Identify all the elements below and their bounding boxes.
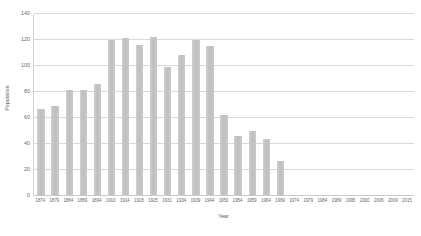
bar xyxy=(192,40,199,196)
x-axis-title: Year xyxy=(33,213,414,219)
x-axis-tick-label: 1950 xyxy=(216,199,230,211)
x-axis-tick-label: 1939 xyxy=(188,199,202,211)
x-axis-tick-label: 1944 xyxy=(202,199,216,211)
bar xyxy=(220,115,227,196)
y-axis-tick-labels: 020406080100120140 xyxy=(14,0,32,200)
y-axis-tick-label: 0 xyxy=(27,193,30,198)
y-axis-title-label: Population xyxy=(4,85,10,111)
x-axis-tick-label: 1984 xyxy=(315,199,329,211)
bar xyxy=(94,84,101,196)
plot-area xyxy=(33,14,414,197)
bar-slot xyxy=(301,14,315,197)
bar xyxy=(234,136,241,196)
x-axis-tick-label: 1934 xyxy=(174,199,188,211)
bar-slot xyxy=(118,14,132,197)
bar-slot xyxy=(287,14,301,197)
bar xyxy=(51,106,58,196)
x-axis-tick-label: 1918 xyxy=(132,199,146,211)
y-axis-tick-label: 80 xyxy=(24,89,30,94)
bar-slot xyxy=(133,14,147,197)
bar-slot xyxy=(372,14,386,197)
x-axis-tick-label: 1894 xyxy=(89,199,103,211)
bar-slot xyxy=(62,14,76,197)
bar-slot xyxy=(147,14,161,197)
bar xyxy=(249,131,256,196)
bar-slot xyxy=(273,14,287,197)
population-bar-chart: Population 020406080100120140 1874187918… xyxy=(0,0,421,236)
bar-slot xyxy=(104,14,118,197)
y-axis-tick-label: 40 xyxy=(24,141,30,146)
y-axis-tick-label: 140 xyxy=(21,11,30,16)
x-axis-tick-label: 1874 xyxy=(33,199,47,211)
bar-slot xyxy=(34,14,48,197)
bar-slot xyxy=(386,14,400,197)
x-axis-tick-label: 1925 xyxy=(146,199,160,211)
x-axis-tick-label: 1889 xyxy=(75,199,89,211)
bar-slot xyxy=(330,14,344,197)
x-axis-tick-label: 2006 xyxy=(372,199,386,211)
bar-slot xyxy=(358,14,372,197)
bars-series xyxy=(34,14,414,197)
x-axis-tick-label: 1969 xyxy=(273,199,287,211)
x-axis-tick-labels: 1874187918841889189419101914191819251931… xyxy=(33,199,414,211)
bar xyxy=(66,90,73,196)
bar-slot xyxy=(245,14,259,197)
bar xyxy=(178,55,185,196)
x-axis-tick-label: 1910 xyxy=(104,199,118,211)
x-axis-line xyxy=(34,195,414,196)
x-axis-tick-label: 1979 xyxy=(301,199,315,211)
bar xyxy=(277,161,284,196)
bar-slot xyxy=(400,14,414,197)
bar-slot xyxy=(90,14,104,197)
bar-slot xyxy=(203,14,217,197)
bar xyxy=(136,45,143,196)
x-axis-tick-label: 1974 xyxy=(287,199,301,211)
x-axis-tick-label: 1914 xyxy=(118,199,132,211)
bar xyxy=(80,90,87,196)
x-axis-tick-label: 2009 xyxy=(386,199,400,211)
bar xyxy=(37,109,44,196)
x-axis-tick-label: 1954 xyxy=(231,199,245,211)
bar xyxy=(206,46,213,196)
x-axis-tick-label: 1995 xyxy=(343,199,357,211)
bar-slot xyxy=(217,14,231,197)
x-axis-tick-label: 1989 xyxy=(329,199,343,211)
bar-slot xyxy=(161,14,175,197)
bar-slot xyxy=(76,14,90,197)
bar-slot xyxy=(344,14,358,197)
x-axis-tick-label: 1884 xyxy=(61,199,75,211)
y-axis-tick-label: 120 xyxy=(21,37,30,42)
x-axis-tick-label: 1959 xyxy=(245,199,259,211)
bar-slot xyxy=(316,14,330,197)
x-axis-tick-label: 1964 xyxy=(259,199,273,211)
bar-slot xyxy=(48,14,62,197)
bar-slot xyxy=(175,14,189,197)
bar-slot xyxy=(189,14,203,197)
y-axis-title: Population xyxy=(0,0,14,196)
bar xyxy=(150,37,157,196)
bar-slot xyxy=(259,14,273,197)
x-axis-tick-label: 2000 xyxy=(358,199,372,211)
bar-slot xyxy=(231,14,245,197)
y-axis-tick-label: 100 xyxy=(21,63,30,68)
bar xyxy=(263,139,270,196)
x-axis-tick-label: 1879 xyxy=(47,199,61,211)
bar xyxy=(164,67,171,196)
x-axis-tick-label: 2015 xyxy=(400,199,414,211)
y-axis-tick-label: 20 xyxy=(24,167,30,172)
y-axis-tick-label: 60 xyxy=(24,115,30,120)
bar xyxy=(122,38,129,196)
x-axis-tick-label: 1931 xyxy=(160,199,174,211)
bar xyxy=(108,40,115,196)
